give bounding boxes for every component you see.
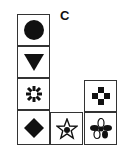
cell-circle xyxy=(17,14,50,46)
down-triangle-icon xyxy=(23,52,45,72)
asterisk-icon xyxy=(25,85,43,103)
cell-cross xyxy=(84,80,117,112)
cell-star xyxy=(50,112,83,145)
cell-triangle xyxy=(17,46,50,78)
cross-icon xyxy=(92,87,110,105)
cell-asterisk xyxy=(17,78,50,110)
star-icon xyxy=(56,118,78,140)
diamond-icon xyxy=(23,117,45,139)
figure-label: C xyxy=(60,8,69,23)
flower-icon xyxy=(90,118,112,140)
filled-circle-icon xyxy=(23,19,45,41)
cell-flower xyxy=(84,112,117,145)
cell-diamond xyxy=(17,110,50,145)
